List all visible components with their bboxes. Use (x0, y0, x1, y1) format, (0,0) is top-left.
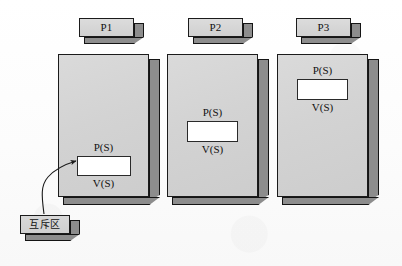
header-p2-label: P2 (209, 22, 221, 33)
process-p2-right-face (258, 59, 269, 202)
annotation-front-face: 互斥区 (20, 215, 70, 234)
process-p1-exit-label: V(S) (58, 178, 149, 190)
process-p1-bottom-face (63, 197, 160, 205)
header-p2-bottom-face (193, 37, 253, 44)
process-body-p2: P(S) V(S) (167, 54, 258, 197)
process-p1-critical-section (77, 156, 131, 176)
process-p3-right-face (368, 59, 379, 202)
process-p2-exit-label: V(S) (167, 144, 258, 156)
process-header-p2: P2 (188, 18, 243, 37)
header-p2-front-face: P2 (188, 18, 243, 37)
process-body-p1: P(S) V(S) (58, 54, 149, 197)
process-p3-enter-label: P(S) (277, 65, 368, 77)
process-p3-critical-section (297, 79, 348, 100)
process-p3-semaphore-group: P(S) V(S) (277, 65, 368, 113)
header-p3-front-face: P3 (296, 18, 351, 37)
header-p3-label: P3 (317, 22, 329, 33)
process-p2-bottom-face (172, 197, 269, 205)
annotation-bottom-face (25, 234, 80, 241)
process-p3-bottom-face (282, 197, 379, 205)
figure-canvas: P1 P2 P3 P(S) V(S) P(S) (0, 0, 402, 266)
process-p2-enter-label: P(S) (167, 107, 258, 119)
annotation-label: 互斥区 (29, 220, 61, 230)
process-p3-exit-label: V(S) (277, 102, 368, 114)
process-p2-critical-section (187, 121, 238, 142)
header-p3-bottom-face (301, 37, 361, 44)
process-p1-semaphore-group: P(S) V(S) (58, 142, 149, 189)
process-p2-semaphore-group: P(S) V(S) (167, 107, 258, 155)
annotation-block-mutual-exclusion: 互斥区 (20, 215, 70, 234)
process-header-p3: P3 (296, 18, 351, 37)
process-body-p3: P(S) V(S) (277, 54, 368, 197)
header-p1-bottom-face (84, 37, 144, 44)
process-p1-right-face (149, 59, 160, 202)
header-p1-front-face: P1 (79, 18, 134, 37)
header-p1-label: P1 (100, 22, 112, 33)
process-header-p1: P1 (79, 18, 134, 37)
process-p1-enter-label: P(S) (58, 142, 149, 154)
